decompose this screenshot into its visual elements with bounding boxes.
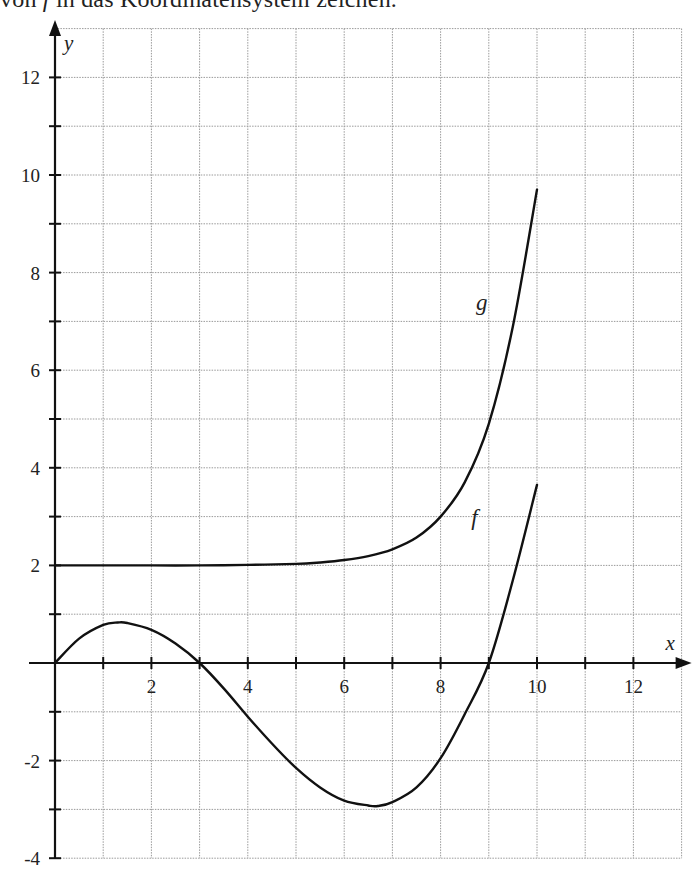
y-axis-label: y: [62, 31, 74, 55]
x-axis-arrow-icon: [676, 657, 692, 669]
grid: [55, 29, 682, 859]
coordinate-system: xy 24681012 12108642-2-4 fg: [0, 0, 692, 896]
x-axis-label: x: [665, 631, 676, 655]
curve-label-g: g: [476, 290, 488, 315]
x-tick-label: 4: [243, 676, 253, 697]
x-tick-label: 2: [147, 676, 157, 697]
x-tick-label: 10: [528, 676, 547, 697]
x-tick-label: 12: [624, 676, 643, 697]
y-tick-label: 10: [21, 165, 40, 186]
y-tick-label: 8: [31, 263, 41, 284]
y-axis-arrow-icon: [49, 20, 61, 36]
y-tick-label: -4: [24, 848, 40, 869]
y-tick-labels: 12108642-2-4: [21, 67, 41, 869]
curve-labels: fg: [471, 290, 487, 530]
y-tick-label: 12: [21, 67, 40, 88]
y-tick-label: -2: [24, 751, 40, 772]
x-tick-label: 8: [436, 676, 446, 697]
curves: [55, 190, 537, 807]
y-tick-label: 2: [31, 555, 41, 576]
axes: xy: [29, 20, 692, 858]
y-tick-label: 6: [31, 360, 41, 381]
y-tick-label: 4: [31, 458, 41, 479]
x-tick-label: 6: [339, 676, 349, 697]
